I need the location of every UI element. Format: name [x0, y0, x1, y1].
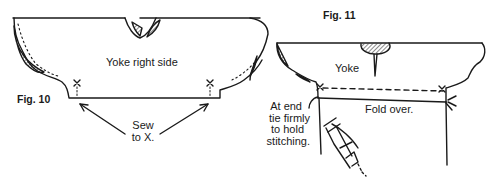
- fig10-caption: Fig. 10: [17, 94, 50, 105]
- fig11-tie-note: At end tie firmly to hold stitching.: [252, 101, 310, 147]
- fig10-sew-line1: Sew: [128, 120, 158, 132]
- fig11-fold-label: Fold over.: [365, 104, 413, 116]
- fig10-yoke-label: Yoke right side: [106, 57, 178, 69]
- fig11-note-line3: to hold: [252, 124, 310, 136]
- fig11-caption: Fig. 11: [323, 10, 356, 21]
- fig10-yoke-drawing: [13, 18, 262, 134]
- fig11-note-line4: stitching.: [252, 136, 310, 148]
- fig10-sew-line2: to X.: [128, 132, 158, 144]
- fig10-sew-instruction: Sew to X.: [128, 120, 158, 143]
- diagram-canvas: [0, 0, 500, 185]
- fig11-yoke-drawing: [250, 18, 485, 176]
- fig11-note-line1: At end: [252, 101, 310, 113]
- fig11-yoke-label: Yoke: [335, 63, 359, 75]
